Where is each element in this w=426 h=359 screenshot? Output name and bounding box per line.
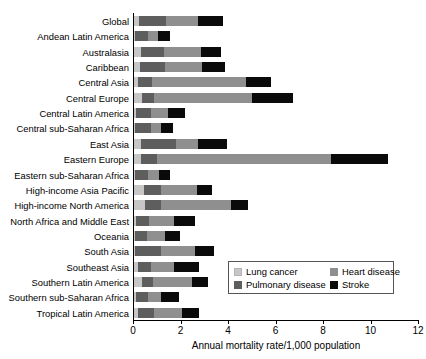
y-axis-category-label: Tropical Latin America xyxy=(37,305,129,322)
stacked-bar xyxy=(134,292,179,302)
legend-label: Lung cancer xyxy=(246,266,298,277)
bar-segment xyxy=(136,108,150,118)
bar-segment xyxy=(165,231,180,241)
bar-segment xyxy=(139,16,166,26)
bar-segment xyxy=(154,93,251,103)
stacked-bar xyxy=(134,31,170,41)
stacked-bar xyxy=(134,308,199,318)
bar-segment xyxy=(134,93,142,103)
bar-segment xyxy=(331,154,388,164)
bar-segment xyxy=(135,231,147,241)
stacked-bar xyxy=(134,154,388,164)
legend-entry: Stroke xyxy=(330,279,400,290)
bar-segment xyxy=(148,31,158,41)
bar-segment xyxy=(142,277,153,287)
bar-segment xyxy=(198,16,223,26)
bar-segment xyxy=(135,170,148,180)
x-axis-tick-label: 8 xyxy=(308,325,338,336)
bar-segment xyxy=(166,16,198,26)
x-axis-tick xyxy=(418,320,419,324)
bar-segment xyxy=(153,277,192,287)
x-axis-tick xyxy=(323,320,324,324)
bar-segment xyxy=(134,277,142,287)
bar-segment xyxy=(202,62,226,72)
bar-segment xyxy=(141,139,175,149)
bar-segment xyxy=(135,246,161,256)
bar-segment xyxy=(168,108,185,118)
stacked-bar xyxy=(134,62,225,72)
x-axis-tick xyxy=(228,320,229,324)
x-axis-tick-label: 4 xyxy=(213,325,243,336)
bar-segment xyxy=(165,62,202,72)
legend-label: Stroke xyxy=(342,279,369,290)
bar-segment xyxy=(174,216,194,226)
bar-segment xyxy=(231,200,248,210)
bar-segment xyxy=(154,308,181,318)
x-axis-title: Annual mortality rate/1,000 population xyxy=(133,340,419,351)
bar-segment xyxy=(136,216,149,226)
bar-segment xyxy=(135,31,148,41)
stacked-bar xyxy=(134,246,214,256)
stacked-bar xyxy=(134,262,199,272)
bar-segment xyxy=(134,200,145,210)
x-axis-tick xyxy=(371,320,372,324)
x-axis-tick xyxy=(133,320,134,324)
bar-segment xyxy=(144,185,162,195)
bar-segment xyxy=(157,154,332,164)
legend-entry: Pulmonary disease xyxy=(234,279,330,290)
bar-segment xyxy=(138,262,151,272)
bar-segment xyxy=(151,123,162,133)
bar-segment xyxy=(164,47,201,57)
legend-label: Pulmonary disease xyxy=(246,279,326,290)
bar-segment xyxy=(252,93,294,103)
bar-segment xyxy=(198,139,227,149)
bar-segment xyxy=(161,246,194,256)
bar-segment xyxy=(138,77,152,87)
legend-swatch-icon xyxy=(234,268,242,276)
x-axis-tick xyxy=(181,320,182,324)
bar-segment xyxy=(246,77,271,87)
bar-segment xyxy=(134,185,144,195)
legend-swatch-icon xyxy=(330,268,338,276)
bar-segment xyxy=(161,185,197,195)
bar-segment xyxy=(161,123,173,133)
bar-segment xyxy=(147,231,165,241)
legend-swatch-icon xyxy=(330,281,338,289)
legend-label: Heart disease xyxy=(342,266,400,277)
stacked-bar-chart: GlobalAndean Latin AmericaAustralasiaCar… xyxy=(0,0,426,359)
x-axis-tick-label: 0 xyxy=(118,325,148,336)
bar-segment xyxy=(151,262,175,272)
stacked-bar xyxy=(134,139,227,149)
stacked-bar xyxy=(134,277,208,287)
legend-swatch-icon xyxy=(234,281,242,289)
bar-segment xyxy=(135,123,150,133)
bar-segment xyxy=(134,139,141,149)
x-axis-tick-label: 10 xyxy=(356,325,386,336)
bar-segment xyxy=(149,216,174,226)
stacked-bar xyxy=(134,185,212,195)
bar-segment xyxy=(192,277,207,287)
bar-segment xyxy=(141,47,164,57)
bar-segment xyxy=(140,62,165,72)
bar-segment xyxy=(148,292,161,302)
x-axis-tick xyxy=(276,320,277,324)
bar-segment xyxy=(182,308,200,318)
bar-segment xyxy=(158,31,170,41)
x-axis-tick-label: 12 xyxy=(403,325,426,336)
bar-segment xyxy=(141,154,156,164)
stacked-bar xyxy=(134,77,271,87)
stacked-bar xyxy=(134,108,185,118)
x-axis-tick-label: 6 xyxy=(261,325,291,336)
stacked-bar xyxy=(134,170,170,180)
bar-segment xyxy=(197,185,212,195)
bar-segment xyxy=(138,308,155,318)
legend: Lung cancerHeart diseasePulmonary diseas… xyxy=(228,261,394,294)
stacked-bar xyxy=(134,47,221,57)
x-axis-tick-label: 2 xyxy=(166,325,196,336)
stacked-bar xyxy=(134,123,173,133)
stacked-bar xyxy=(134,200,248,210)
legend-entry: Heart disease xyxy=(330,266,400,277)
bar-segment xyxy=(159,170,170,180)
stacked-bar xyxy=(134,216,195,226)
bar-segment xyxy=(201,47,221,57)
